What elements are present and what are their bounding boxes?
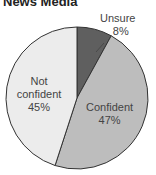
unsure-label-pct: 8%: [100, 25, 135, 38]
confident-label: Confident 47%: [86, 101, 133, 127]
not-confident-label-line2: confident: [8, 88, 70, 101]
not-confident-label-pct: 45%: [8, 101, 70, 114]
not-confident-label: Not confident 45%: [8, 75, 70, 114]
unsure-label-name: Unsure: [100, 12, 135, 25]
unsure-label: Unsure 8%: [100, 12, 135, 38]
confident-label-pct: 47%: [86, 114, 133, 127]
not-confident-label-line1: Not: [8, 75, 70, 88]
confident-label-name: Confident: [86, 101, 133, 114]
